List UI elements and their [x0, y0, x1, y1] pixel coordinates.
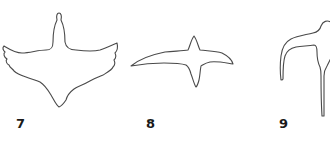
figure-label-9: 9 [279, 117, 288, 131]
figure-label-7: 7 [16, 117, 25, 131]
bird-7-outline-icon [3, 13, 117, 107]
bird-9-outline-icon [280, 21, 330, 116]
figure-label-8: 8 [146, 117, 155, 131]
bird-8-outline-icon [131, 36, 233, 87]
